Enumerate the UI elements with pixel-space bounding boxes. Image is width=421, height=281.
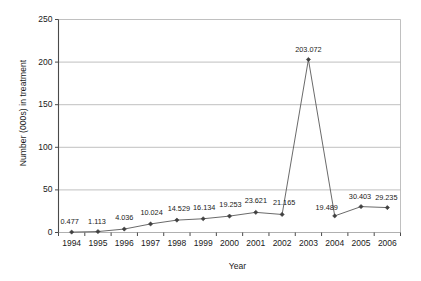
data-point-label: 203.072 — [287, 46, 329, 54]
data-point-label: 21.165 — [263, 199, 305, 207]
line-chart: Number (000s) in treatment Year 05010015… — [0, 0, 421, 281]
x-axis-ticks — [59, 233, 401, 237]
x-axis-tick-label: 2006 — [372, 239, 402, 248]
y-axis-tick-label: 50 — [25, 185, 53, 194]
y-axis-tick-label: 250 — [25, 15, 53, 24]
y-axis-tick-label: 100 — [25, 143, 53, 152]
y-axis-tick-label: 200 — [25, 58, 53, 67]
x-axis-title: Year — [60, 261, 415, 271]
data-point-label: 19.489 — [306, 204, 348, 212]
data-point-label: 29.235 — [365, 194, 407, 202]
y-axis-tick-label: 0 — [25, 228, 53, 237]
y-axis-title: Number (000s) in treatment — [18, 23, 28, 203]
y-axis-tick-label: 150 — [25, 100, 53, 109]
